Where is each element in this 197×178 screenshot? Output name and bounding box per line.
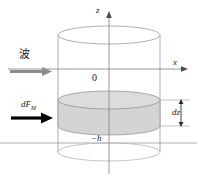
- dz-label: dz: [172, 108, 180, 117]
- schematic-drawing: [0, 0, 197, 178]
- x-axis-arrowhead: [181, 66, 188, 72]
- z-axis-label: z: [96, 6, 100, 15]
- x-axis-label: x: [173, 58, 177, 67]
- force-arrow: [11, 113, 53, 124]
- origin-label: 0: [92, 73, 97, 83]
- wave-direction-arrow: [10, 67, 52, 76]
- figure-canvas: z x 0 −h dz 波 dFM: [0, 0, 197, 178]
- wave-label: 波: [19, 49, 30, 60]
- seabed-depth-label: −h: [91, 134, 102, 143]
- force-label-base: dF: [21, 99, 31, 109]
- force-arrow-head: [41, 113, 53, 124]
- force-label: dFM: [21, 100, 36, 111]
- z-axis-arrowhead: [106, 11, 112, 18]
- force-label-subscript: M: [31, 105, 36, 111]
- wave-arrow-head: [42, 67, 52, 76]
